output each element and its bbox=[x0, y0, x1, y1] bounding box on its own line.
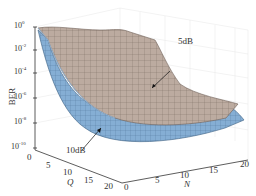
ber-surface-chart: 100 10-2 10-4 10-6 10-8 10-10 BER 0 5 10… bbox=[0, 0, 256, 196]
z-axis-label: BER bbox=[8, 88, 17, 106]
q-tick-0: 0 bbox=[27, 153, 32, 162]
n-tick-15: 15 bbox=[209, 166, 218, 175]
z-tick-2: 10-2 bbox=[14, 45, 26, 53]
z-tick-10: 10-10 bbox=[11, 143, 26, 151]
q-tick-20: 20 bbox=[104, 182, 113, 191]
q-axis-label: Q bbox=[67, 178, 74, 187]
q-tick-10: 10 bbox=[63, 168, 72, 177]
annotation-5db: 5dB bbox=[178, 37, 193, 46]
n-tick-5: 5 bbox=[155, 176, 160, 185]
q-tick-15: 15 bbox=[84, 176, 93, 185]
n-axis-label: N bbox=[184, 180, 190, 189]
q-tick-5: 5 bbox=[46, 161, 51, 170]
z-tick-0: 100 bbox=[14, 22, 25, 30]
n-tick-20: 20 bbox=[240, 160, 249, 169]
n-tick-0: 0 bbox=[124, 183, 129, 192]
z-tick-8: 10-8 bbox=[14, 118, 26, 126]
annotation-10db: 10dB bbox=[66, 146, 86, 155]
z-tick-4: 10-4 bbox=[14, 68, 26, 76]
